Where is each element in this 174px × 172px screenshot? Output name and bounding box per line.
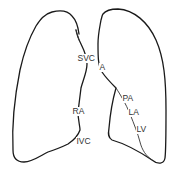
lung-diagram xyxy=(0,0,174,172)
left-lung-outline xyxy=(98,9,166,163)
label-ivc: IVC xyxy=(76,137,91,146)
label-lv: LV xyxy=(136,125,147,134)
label-aorta: A xyxy=(99,63,106,72)
label-svc: SVC xyxy=(77,54,95,63)
label-pa: PA xyxy=(122,94,134,103)
label-la: LA xyxy=(128,108,139,117)
label-ra: RA xyxy=(72,107,85,116)
